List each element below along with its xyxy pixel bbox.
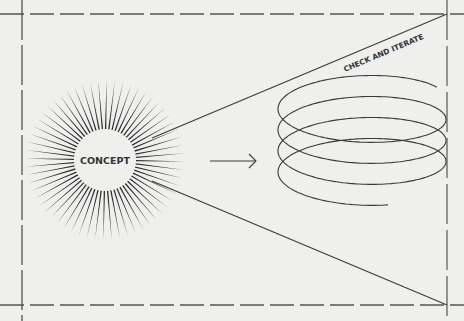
sunburst-ray <box>118 88 139 133</box>
concept-label: CONCEPT <box>80 155 130 166</box>
sunburst-ray <box>107 191 112 240</box>
diagram-canvas: CONCEPT CHECK AND ITERATE <box>0 0 464 321</box>
sunburst-ray <box>26 165 74 175</box>
sunburst-ray <box>98 80 103 129</box>
sunburst-ray <box>25 162 74 167</box>
flow-arrow <box>210 154 256 168</box>
sunburst-ray <box>133 173 178 194</box>
sunburst-ray <box>136 153 185 158</box>
sunburst-ray <box>87 190 99 238</box>
sunburst-ray <box>111 82 123 130</box>
iteration-spiral <box>278 76 446 206</box>
concept-iterate-diagram: CONCEPT CHECK AND ITERATE <box>0 0 464 321</box>
sunburst-ray <box>135 145 183 155</box>
sunburst-ray <box>135 166 183 178</box>
cone-lower-line <box>152 181 447 305</box>
sunburst-ray <box>90 81 100 129</box>
sunburst-ray <box>71 188 92 233</box>
sunburst-ray <box>105 80 107 129</box>
sunburst-ray <box>103 191 105 240</box>
sunburst-ray <box>33 126 78 147</box>
sunburst-ray <box>25 158 74 160</box>
sunburst-ray <box>136 160 185 162</box>
sunburst-ray <box>110 190 120 238</box>
sunburst-ray <box>27 142 75 154</box>
